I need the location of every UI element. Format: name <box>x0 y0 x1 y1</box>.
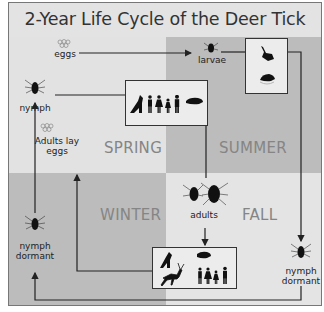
nymph-host-icons <box>130 95 206 113</box>
girl-icon <box>165 98 171 113</box>
adult-host-icons <box>157 251 235 287</box>
man-icon <box>175 95 179 113</box>
man-icon <box>148 95 152 113</box>
nymph-dormant-left-label: nymph dormant <box>13 241 57 261</box>
mouse-icon <box>197 252 211 259</box>
man-icon <box>198 267 202 284</box>
bird-icon <box>258 45 276 63</box>
nymph-label: nymph <box>17 103 53 113</box>
mouse-icon <box>258 71 276 87</box>
nymph-dormant-tick-icon <box>25 215 45 231</box>
mouse-icon <box>186 98 203 105</box>
nymph-dormant-right-label: nymph dormant <box>279 266 322 286</box>
dog-icon <box>130 95 143 113</box>
eggs-icon <box>40 123 54 133</box>
eggs-label: eggs <box>51 49 79 59</box>
man-icon <box>223 267 227 284</box>
woman-icon <box>204 267 212 284</box>
nymph-dormant-tick-icon <box>291 243 311 259</box>
adult-ticks-icon <box>183 181 229 207</box>
adults-lay-eggs-label: Adults lay eggs <box>29 136 85 156</box>
girl-icon <box>213 271 219 284</box>
deer-icon <box>161 263 184 286</box>
diagram-frame: 2-Year Life Cycle of the Deer Tick SPRIN… <box>8 2 322 306</box>
larvae-label: larvae <box>195 55 229 65</box>
adults-hosts-box <box>152 247 237 289</box>
dog-icon <box>160 252 172 268</box>
nymph-tick-icon <box>25 79 45 95</box>
adults-label: adults <box>187 210 221 220</box>
larvae-hosts-box <box>245 38 288 94</box>
larva-tick-icon <box>204 40 218 54</box>
eggs-icon <box>57 39 71 49</box>
nymph-hosts-box <box>125 80 208 126</box>
woman-icon <box>155 95 163 113</box>
